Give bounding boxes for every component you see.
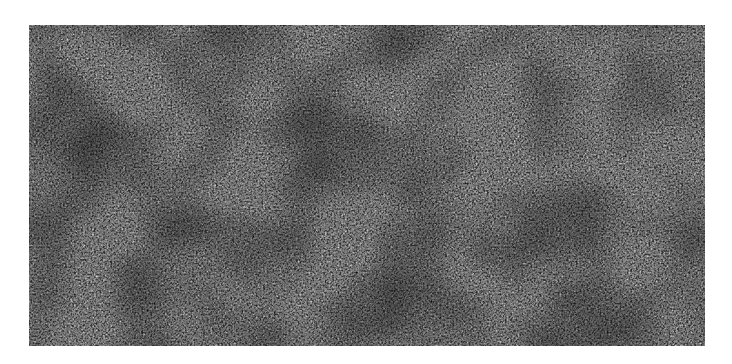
- fiber-noise-graphic: [29, 25, 705, 346]
- noise-texture-image: [29, 25, 705, 346]
